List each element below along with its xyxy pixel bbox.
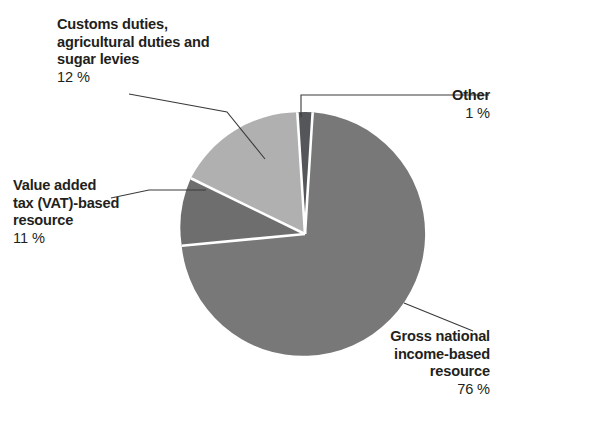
callout-customs-percent: 12 %: [57, 69, 277, 87]
callout-gni: Gross national income-based resource 76 …: [290, 328, 490, 399]
callout-other-percent: 1 %: [320, 105, 490, 123]
callout-gni-title: Gross national income-based resource: [290, 328, 490, 381]
callout-vat-title: Value added tax (VAT)-based resource: [13, 177, 188, 230]
callout-vat-percent: 11 %: [13, 230, 188, 248]
callout-vat: Value added tax (VAT)-based resource 11 …: [13, 177, 188, 248]
pie-slices: [180, 112, 425, 356]
pie-chart-figure: Customs duties, agricultural duties and …: [0, 0, 591, 428]
callout-gni-percent: 76 %: [290, 381, 490, 399]
callout-other-title: Other: [320, 87, 490, 105]
callout-customs: Customs duties, agricultural duties and …: [57, 16, 277, 87]
callout-customs-title: Customs duties, agricultural duties and …: [57, 16, 277, 69]
callout-other: Other 1 %: [320, 87, 490, 122]
leader-line-gni: [404, 303, 473, 331]
